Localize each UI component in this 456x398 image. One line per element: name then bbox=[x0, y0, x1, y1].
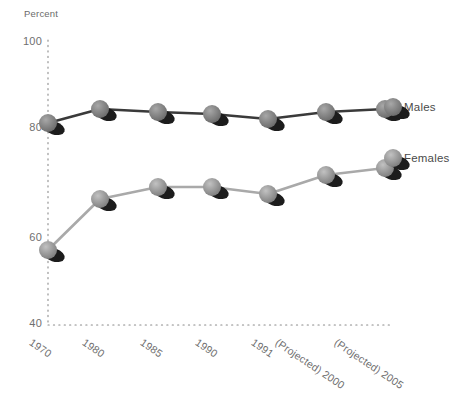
data-point-marker bbox=[149, 103, 176, 127]
chart-plot-area bbox=[0, 0, 456, 398]
data-point-marker bbox=[203, 178, 230, 202]
data-markers-males bbox=[39, 100, 403, 138]
data-point-marker bbox=[259, 110, 286, 134]
chart-container: Percent 100 80 60 40 1970 1980 1985 1990… bbox=[0, 0, 456, 398]
data-point-marker bbox=[39, 241, 66, 265]
data-point-marker bbox=[317, 103, 344, 127]
data-point-marker bbox=[149, 178, 176, 202]
data-point-marker bbox=[91, 190, 118, 214]
data-point-marker bbox=[317, 166, 344, 190]
data-point-marker bbox=[203, 105, 230, 129]
data-point-marker bbox=[91, 100, 118, 124]
data-markers-females bbox=[39, 159, 403, 265]
data-point-marker bbox=[39, 114, 66, 138]
